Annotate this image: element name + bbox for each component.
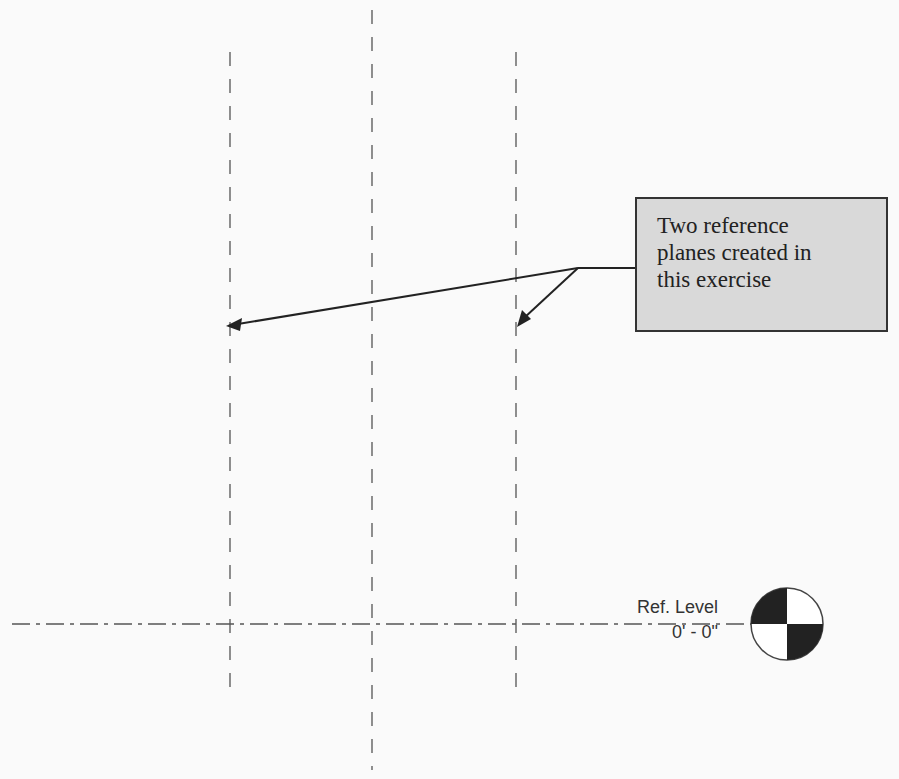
drawing-canvas xyxy=(0,0,899,779)
callout-line-3: this exercise xyxy=(657,266,886,293)
callout-line-2: planes created in xyxy=(657,239,886,266)
level-elevation-label[interactable]: 0' - 0" xyxy=(672,622,718,643)
arrowhead-left-icon xyxy=(226,318,242,331)
callout-note: Two reference planes created in this exe… xyxy=(635,197,888,332)
level-head-icon[interactable] xyxy=(751,588,823,660)
callout-line-1: Two reference xyxy=(657,212,886,239)
level-name-label[interactable]: Ref. Level xyxy=(637,597,718,618)
